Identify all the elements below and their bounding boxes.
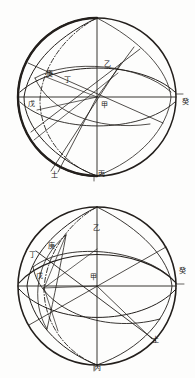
label-lower-right: 土 (152, 335, 159, 344)
label-inner-left: 丁 (64, 76, 71, 84)
label-outer-left: 丁 (29, 251, 36, 259)
label-left-pole: 戊 (36, 271, 43, 280)
label-upper-right-stem: 乙 (93, 224, 100, 232)
chord-center-to-lower-right (97, 286, 152, 339)
chord-short-left (37, 97, 97, 110)
label-bottom-left: 土 (51, 170, 58, 179)
chord-center-up-right (97, 47, 134, 97)
chord-pole-to-pole (46, 77, 97, 97)
label-center: 甲 (90, 273, 97, 281)
lower-sphere-diagram: 丁 庚 乙 戊 甲 癸 土 丙 (0, 189, 195, 378)
equator-arc-lower (19, 289, 176, 318)
upper-sphere-diagram: 庚 丁 乙 戊 甲 癸 土 丙 (0, 0, 195, 189)
label-right-edge: 癸 (182, 97, 189, 106)
label-bottom-center: 丙 (94, 364, 101, 372)
label-upper-right-stem: 乙 (104, 60, 111, 68)
label-top-left-stem: 庚 (46, 69, 53, 78)
label-inner-left-stem: 庚 (48, 241, 55, 250)
label-right-edge: 癸 (179, 266, 186, 275)
label-bottom-center: 丙 (98, 170, 105, 178)
chord-center-down (58, 97, 97, 172)
inner-arc-upper (35, 66, 171, 92)
diagram-page: 庚 丁 乙 戊 甲 癸 土 丙 (0, 0, 195, 378)
label-left-pole: 戊 (28, 99, 35, 108)
label-center: 甲 (101, 101, 108, 109)
upper-sphere-svg: 庚 丁 乙 戊 甲 癸 土 丙 (0, 0, 195, 189)
lower-sphere-svg: 丁 庚 乙 戊 甲 癸 土 丙 (0, 189, 195, 378)
